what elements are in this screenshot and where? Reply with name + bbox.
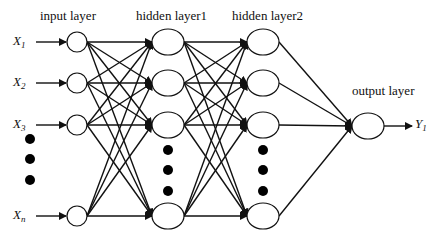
connection-edge bbox=[279, 125, 352, 126]
input-node bbox=[67, 32, 87, 52]
connection-edge bbox=[279, 126, 352, 216]
output-node bbox=[352, 113, 384, 139]
connection-edge bbox=[279, 83, 352, 126]
hidden1-node bbox=[152, 29, 184, 55]
hidden2-node bbox=[247, 112, 279, 138]
input-label-x2: X2 bbox=[12, 74, 26, 91]
hidden1-node bbox=[152, 112, 184, 138]
input-ellipsis bbox=[25, 134, 35, 185]
output-label-y1: Y1 bbox=[415, 116, 427, 133]
input-node bbox=[67, 206, 87, 226]
input-node bbox=[67, 73, 87, 93]
connection-edge bbox=[279, 42, 352, 126]
input-node bbox=[67, 115, 87, 135]
hidden2-node bbox=[247, 203, 279, 229]
hidden2-ellipsis bbox=[258, 145, 268, 196]
neural-network-diagram: input layer hidden layer1 hidden layer2 … bbox=[0, 0, 443, 242]
input-label-xn: Xn bbox=[12, 207, 26, 224]
hidden1-ellipsis bbox=[163, 145, 173, 196]
input-label-x3: X3 bbox=[12, 116, 26, 133]
hidden1-node bbox=[152, 70, 184, 96]
input-label-x1: X1 bbox=[12, 33, 25, 50]
input-layer-label: input layer bbox=[40, 8, 97, 23]
hidden2-node bbox=[247, 29, 279, 55]
hidden-layer2-label: hidden layer2 bbox=[232, 8, 303, 23]
hidden-layer1-label: hidden layer1 bbox=[136, 8, 207, 23]
hidden1-node bbox=[152, 203, 184, 229]
output-layer-label: output layer bbox=[352, 83, 415, 98]
hidden2-node bbox=[247, 70, 279, 96]
